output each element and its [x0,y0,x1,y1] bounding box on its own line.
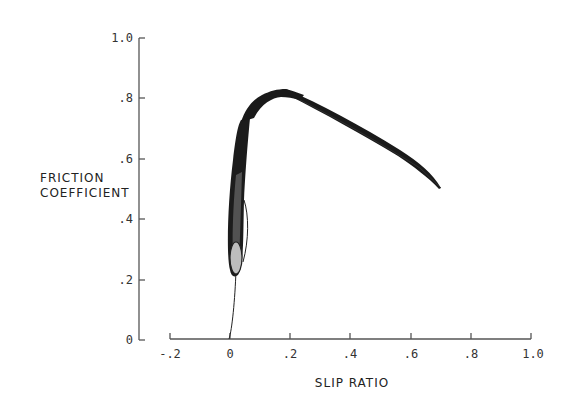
y-axis-title-line2: COEFFICIENT [40,186,130,200]
friction-curve [228,89,441,339]
x-tick-label: 1.0 [522,347,544,361]
y-tick-label: .6 [119,152,133,166]
x-tick-label: .8 [464,347,478,361]
x-tick-label: .2 [283,347,297,361]
y-tick-label: .4 [119,212,133,226]
x-tick-label: 0 [226,347,233,361]
y-tick-label: 1.0 [111,31,133,45]
y-tick-label: 0 [126,333,133,347]
x-tick-label: -.2 [159,347,181,361]
x-axis: -.2 0 .2 .4 .6 .8 1.0 [159,333,544,361]
friction-slip-chart: 0 .2 .4 .6 .8 1.0 FRICTION COEFFICIENT -… [0,0,588,411]
y-axis-title-line1: FRICTION [40,171,104,185]
y-tick-label: .2 [119,273,133,287]
x-tick-label: .6 [404,347,418,361]
x-axis-title: SLIP RATIO [315,376,389,390]
x-tick-label: .4 [343,347,357,361]
y-tick-label: .8 [119,91,133,105]
